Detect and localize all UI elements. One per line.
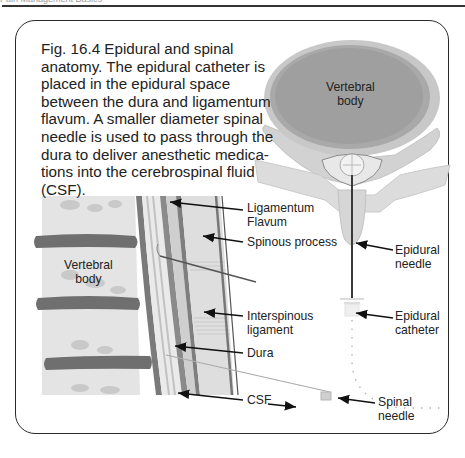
label-dura: Dura [247, 346, 273, 360]
caption-line: Fig. 16.4 Epidural and spinal [41, 40, 276, 58]
label-epidural-needle: Epidural needle [395, 243, 440, 271]
label-vertebral-body-sagittal: Vertebral body [64, 258, 113, 286]
label-csf: CSF [247, 393, 271, 407]
caption-line: placed in the epidural space [41, 75, 276, 93]
label-ligamentum-flavum: Ligamentum Flavum [247, 201, 314, 229]
label-spinous-process: Spinous process [247, 235, 337, 249]
label-vertebral-body-axial: Vertebral body [326, 80, 375, 108]
label-interspinous-ligament: Interspinous ligament [247, 309, 313, 337]
caption-line: between the dura and ligamentum [41, 93, 276, 111]
caption-line: anatomy. The epidural catheter is [41, 58, 276, 76]
caption-line: needle is used to pass through the [41, 128, 276, 146]
caption-line: flavum. A smaller diameter spinal [41, 110, 276, 128]
caption-line: (CSF). [41, 181, 276, 199]
caption-line: dura to deliver anesthetic medica- [41, 146, 276, 164]
caption-line: tions into the cerebrospinal fluid [41, 163, 276, 181]
label-epidural-catheter: Epidural catheter [395, 309, 440, 337]
label-spinal-needle: Spinal needle [378, 395, 415, 423]
figure-caption: Fig. 16.4 Epidural and spinal anatomy. T… [41, 40, 276, 198]
